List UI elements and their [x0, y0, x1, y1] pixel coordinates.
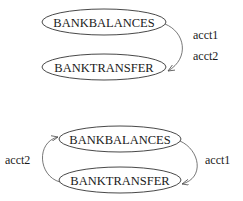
node-banktransfer-bottom: BANKTRANSFER [59, 167, 181, 193]
node-label: BANKTRANSFER [70, 174, 170, 188]
diagram-bottom: BANKBALANCES BANKTRANSFER acct1 acct2 [5, 126, 230, 193]
edge-balances-to-transfer [180, 141, 197, 184]
node-bankbalances-bottom: BANKBALANCES [59, 126, 181, 152]
edge-label-acct2: acct2 [5, 153, 30, 167]
node-label: BANKBALANCES [69, 133, 170, 147]
node-bankbalances-top: BANKBALANCES [42, 9, 166, 35]
edge-balances-to-transfer [165, 24, 182, 71]
edge-label-acct1: acct1 [193, 28, 218, 42]
diagram-canvas: BANKBALANCES BANKTRANSFER acct1 acct2 BA… [0, 0, 243, 201]
edge-label-acct1: acct1 [205, 153, 230, 167]
node-banktransfer-top: BANKTRANSFER [42, 54, 166, 80]
node-label: BANKTRANSFER [54, 61, 154, 75]
diagram-top: BANKBALANCES BANKTRANSFER acct1 acct2 [42, 9, 218, 80]
edge-transfer-to-balances [42, 137, 60, 182]
edge-label-acct2: acct2 [193, 49, 218, 63]
node-label: BANKBALANCES [53, 16, 154, 30]
